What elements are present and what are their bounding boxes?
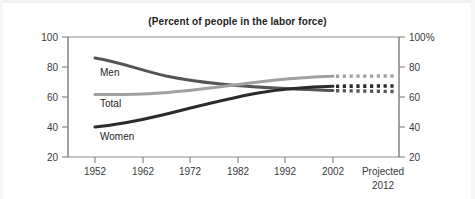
x-tick-1972: 1972 — [179, 166, 202, 177]
x-tick-projected-line2: 2012 — [372, 180, 395, 191]
line-chart-plot: 100 80 60 40 20 100% 80 60 40 20 1952 — [0, 0, 475, 199]
series-label-men: Men — [100, 67, 119, 78]
y-tick-right-60: 60 — [409, 92, 421, 103]
y-tick-left-100: 100 — [41, 32, 58, 43]
series-line-women — [95, 86, 333, 127]
x-tick-2002: 2002 — [322, 166, 345, 177]
series-label-women: Women — [100, 131, 134, 142]
y-tick-left-60: 60 — [47, 92, 59, 103]
series-line-total — [95, 76, 333, 94]
y-axis-right-ticks — [399, 37, 405, 157]
series-projection-men — [336, 91, 396, 92]
x-axis-ticks — [95, 157, 333, 163]
series-label-total: Total — [100, 98, 121, 109]
x-tick-1992: 1992 — [274, 166, 297, 177]
x-tick-projected-line1: Projected — [362, 166, 404, 177]
x-tick-1962: 1962 — [132, 166, 155, 177]
y-tick-left-80: 80 — [47, 62, 59, 73]
chart-screenshot: (Percent of people in the labor force) 1… — [0, 0, 475, 199]
y-tick-left-20: 20 — [47, 152, 59, 163]
y-tick-right-20: 20 — [409, 152, 421, 163]
series-line-men — [95, 58, 333, 91]
x-tick-1982: 1982 — [227, 166, 250, 177]
y-axis-left-ticks — [62, 37, 68, 157]
y-tick-right-100: 100% — [409, 32, 435, 43]
y-tick-left-40: 40 — [47, 122, 59, 133]
y-tick-right-80: 80 — [409, 62, 421, 73]
y-tick-right-40: 40 — [409, 122, 421, 133]
x-tick-1952: 1952 — [84, 166, 107, 177]
